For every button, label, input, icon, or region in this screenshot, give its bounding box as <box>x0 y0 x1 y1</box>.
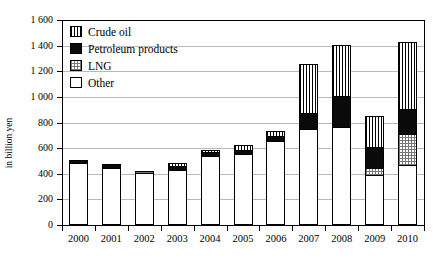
bar-2010 <box>398 43 417 225</box>
y-axis-tick-label: 0 <box>0 220 53 230</box>
x-axis-tick-mark <box>391 226 392 231</box>
stacked-bar-chart: in billion yen 02004006008001 0001 2001 … <box>0 0 439 268</box>
bar-segment-crude-oil-2003 <box>168 163 187 167</box>
bar-segment-crude-oil-2008 <box>332 45 351 97</box>
bar-segment-crude-oil-2010 <box>398 42 417 110</box>
bar-segment-other-2001 <box>102 168 121 225</box>
y-axis-tick-label: 600 <box>0 143 53 153</box>
bar-2006 <box>266 132 285 225</box>
legend-swatch-crude-oil-icon <box>70 26 82 37</box>
bar-2001 <box>102 165 121 225</box>
legend-item-petroleum-products: Petroleum products <box>70 41 178 56</box>
legend-label-other: Other <box>88 77 114 89</box>
bar-segment-crude-oil-2009 <box>365 116 384 148</box>
bar-segment-other-2003 <box>168 170 187 225</box>
bar-segment-other-2010 <box>398 165 417 225</box>
bar-segment-crude-oil-2007 <box>299 64 318 114</box>
bar-segment-other-2009 <box>365 175 384 225</box>
x-axis-tick-mark <box>325 226 326 231</box>
bar-2004 <box>201 151 220 225</box>
x-axis-tick-mark <box>95 226 96 231</box>
legend-label-lng: LNG <box>88 60 112 72</box>
legend: Crude oil Petroleum products LNG Other <box>70 24 178 92</box>
bar-segment-other-2005 <box>234 154 253 225</box>
bar-segment-other-2002 <box>135 173 154 225</box>
bar-2007 <box>299 65 318 225</box>
bar-segment-other-2004 <box>201 156 220 225</box>
y-axis-tick-label: 800 <box>0 118 53 128</box>
bar-segment-other-2008 <box>332 127 351 225</box>
x-axis-tick-mark <box>358 226 359 231</box>
legend-swatch-lng-icon <box>70 60 82 71</box>
legend-item-other: Other <box>70 75 178 90</box>
x-axis-tick-mark <box>259 226 260 231</box>
bar-segment-petroleum-products-2010 <box>398 109 417 136</box>
x-axis-tick-label-2010: 2010 <box>388 233 428 245</box>
x-axis-tick-mark <box>194 226 195 231</box>
legend-item-lng: LNG <box>70 58 178 73</box>
x-axis-tick-mark <box>292 226 293 231</box>
bar-segment-lng-2009 <box>365 168 384 177</box>
bar-2008 <box>332 46 351 225</box>
x-axis-tick-mark <box>227 226 228 231</box>
bar-segment-petroleum-products-2001 <box>102 164 121 168</box>
bar-segment-crude-oil-2004 <box>201 150 220 154</box>
bar-segment-lng-2010 <box>398 134 417 166</box>
y-axis-tick-label: 1 000 <box>0 92 53 102</box>
y-axis-tick-label: 1 200 <box>0 66 53 76</box>
axis-line-right <box>424 20 425 226</box>
bar-2005 <box>234 146 253 225</box>
x-axis-tick-mark <box>128 226 129 231</box>
bar-segment-crude-oil-2006 <box>266 131 285 136</box>
y-axis-tick-label: 200 <box>0 194 53 204</box>
bar-2009 <box>365 117 384 225</box>
y-axis-tick-label: 1 400 <box>0 41 53 51</box>
legend-swatch-other-icon <box>70 77 82 88</box>
bar-segment-other-2000 <box>69 163 88 226</box>
bar-segment-other-2007 <box>299 129 318 225</box>
bar-segment-petroleum-products-2007 <box>299 113 318 130</box>
x-axis-tick-mark <box>161 226 162 231</box>
y-axis-tick-label: 400 <box>0 169 53 179</box>
bar-2000 <box>69 161 88 225</box>
bar-segment-lng-2002 <box>135 171 154 175</box>
bar-segment-crude-oil-2005 <box>234 145 253 150</box>
bar-segment-petroleum-products-2009 <box>365 147 384 169</box>
x-axis-tick-mark <box>424 226 425 231</box>
legend-swatch-petroleum-products-icon <box>70 43 82 54</box>
legend-item-crude-oil: Crude oil <box>70 24 178 39</box>
legend-label-crude-oil: Crude oil <box>88 26 131 38</box>
bar-segment-other-2006 <box>266 141 285 225</box>
bar-segment-petroleum-products-2000 <box>69 160 88 164</box>
bar-segment-petroleum-products-2008 <box>332 96 351 128</box>
legend-label-petroleum-products: Petroleum products <box>88 43 178 55</box>
bar-2002 <box>135 172 154 225</box>
x-axis-tick-mark <box>62 226 63 231</box>
bar-2003 <box>168 164 187 225</box>
y-axis-tick-label: 1 600 <box>0 15 53 25</box>
axis-line-bottom <box>62 225 425 226</box>
